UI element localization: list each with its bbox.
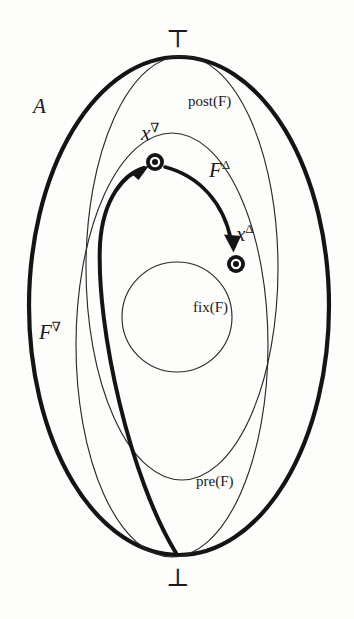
f-nabla-base: F — [39, 320, 52, 344]
post-f-ellipse — [86, 56, 278, 480]
x-delta-label: xΔ — [236, 222, 254, 245]
x-nabla-label: x∇ — [141, 121, 159, 144]
pre-f-label: pre(F) — [196, 474, 234, 489]
x-nabla-base: x — [141, 121, 150, 145]
top-element-label: ⊤ — [166, 26, 190, 51]
f-delta-superscript: Δ — [222, 157, 230, 172]
x-nabla-superscript: ∇ — [150, 120, 159, 135]
f-nabla-arrow-path — [100, 168, 176, 553]
f-delta-label: FΔ — [209, 158, 230, 181]
pre-f-ellipse — [76, 133, 268, 557]
point-x-delta — [227, 255, 245, 273]
fix-f-circle — [122, 262, 232, 372]
f-nabla-label: F∇ — [39, 320, 61, 343]
x-delta-superscript: Δ — [245, 221, 253, 236]
f-delta-base: F — [209, 158, 222, 182]
fixpoint-diagram: ⊤ ⊥ A post(F) fix(F) pre(F) x∇ FΔ xΔ F∇ — [0, 0, 354, 619]
universe-label-a: A — [33, 96, 46, 117]
fix-f-label: fix(F) — [193, 300, 228, 315]
f-nabla-superscript: ∇ — [52, 319, 61, 334]
post-f-label: post(F) — [188, 94, 231, 109]
diagram-canvas — [0, 0, 354, 619]
bottom-element-label: ⊥ — [166, 565, 190, 590]
point-x-nabla — [146, 153, 164, 171]
x-delta-base: x — [236, 222, 245, 246]
